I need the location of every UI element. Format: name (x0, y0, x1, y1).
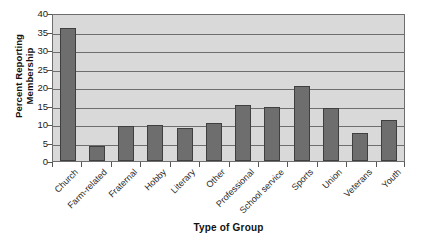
bar (206, 123, 222, 161)
y-axis-tick-label: 40 (28, 9, 48, 19)
y-axis-tick-label: 25 (28, 65, 48, 75)
y-axis-title-line-1: Percent Reporting (13, 34, 25, 118)
bar-slot (82, 15, 111, 161)
bar (264, 107, 280, 161)
bar (89, 146, 105, 161)
x-axis-tick-label: Church (52, 167, 80, 195)
bar (323, 108, 339, 161)
bar-slot (287, 15, 316, 161)
x-axis-tick-label: Hobby (143, 167, 168, 192)
bar (235, 105, 251, 161)
bar (118, 126, 134, 161)
bar-slot (375, 15, 404, 161)
y-axis-tick-label: 35 (28, 28, 48, 38)
bar-slot (199, 15, 228, 161)
y-axis-tick-label: 5 (28, 139, 48, 149)
x-axis-tick-label: Literary (169, 167, 197, 195)
bar-slot (258, 15, 287, 161)
bar (177, 128, 193, 161)
x-axis-tick-label: Other (204, 167, 227, 190)
x-axis-tick-labels: ChurchFarm-relatedFraternalHobbyLiterary… (52, 167, 405, 217)
x-axis-tick-label: Veterans (342, 167, 374, 199)
y-axis-tick-label: 30 (28, 46, 48, 56)
bar-slot (346, 15, 375, 161)
plot-area (52, 14, 405, 162)
bar-slot (112, 15, 141, 161)
y-axis-tick-labels: 0510152025303540 (28, 9, 48, 165)
x-axis-title: Type of Group (52, 222, 405, 233)
bar-chart-figure: Percent Reporting Membership 05101520253… (0, 0, 421, 250)
y-axis-tick-label: 15 (28, 102, 48, 112)
x-axis-tick-label: Sports (290, 167, 315, 192)
bar (147, 125, 163, 161)
x-axis-tick-label: Youth (380, 167, 403, 190)
bar-slot (170, 15, 199, 161)
x-axis-tick-label: Fraternal (106, 167, 139, 200)
bar (60, 28, 76, 161)
bar (381, 120, 397, 161)
y-axis-tick-label: 0 (28, 157, 48, 167)
bar-slot (316, 15, 345, 161)
x-axis-tick-label: Union (321, 167, 345, 191)
bar (352, 133, 368, 161)
bar (294, 86, 310, 161)
bars-layer (53, 15, 404, 161)
bar-slot (53, 15, 82, 161)
y-axis-tick-label: 20 (28, 83, 48, 93)
bar-slot (229, 15, 258, 161)
y-axis-tick-label: 10 (28, 120, 48, 130)
bar-slot (141, 15, 170, 161)
